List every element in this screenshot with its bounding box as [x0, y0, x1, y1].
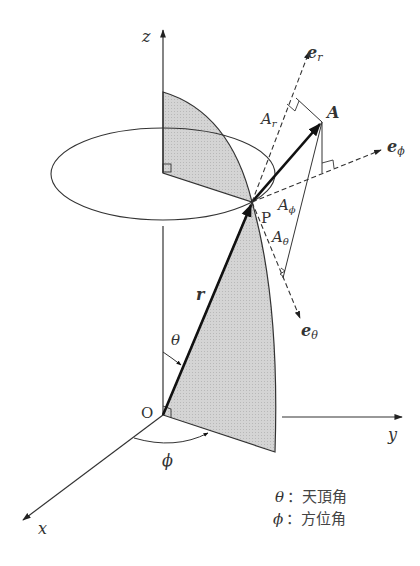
point-P-label: P: [261, 209, 271, 227]
phi-arc: [134, 433, 208, 443]
theta-arc: [163, 352, 181, 365]
e-phi-label: eϕ: [387, 137, 405, 158]
x-axis-label: x: [38, 519, 47, 538]
A-r-label: Ar: [259, 110, 278, 129]
projection-A-to-er: [296, 98, 322, 122]
x-axis: [23, 415, 163, 520]
e-r-label: er: [307, 43, 323, 64]
r-label: r: [196, 285, 206, 304]
unit-vector-e-phi: [252, 150, 381, 202]
A-label: A: [325, 103, 339, 122]
spherical-coordinates-diagram: z y x O P r θ ϕ A er eϕ eθ Ar Aϕ Aθ θ：天頂…: [0, 0, 420, 566]
upper-meridian-shade: [163, 92, 252, 202]
lower-meridian-shade: [163, 202, 276, 452]
z-axis-label: z: [141, 27, 151, 46]
e-theta-label: eθ: [301, 321, 318, 342]
theta-label: θ: [171, 331, 180, 349]
right-angle-mark-er: [287, 101, 299, 111]
A-theta-label: Aθ: [270, 228, 289, 247]
y-axis-label: y: [387, 425, 398, 444]
phi-label: ϕ: [162, 451, 173, 470]
origin-label: O: [141, 404, 153, 422]
right-angle-mark-ephi: [322, 160, 334, 168]
A-phi-label: Aϕ: [276, 196, 296, 215]
legend-phi: ϕ：方位角: [273, 510, 346, 528]
legend-theta: θ：天頂角: [275, 488, 347, 506]
vector-A: [252, 124, 320, 202]
